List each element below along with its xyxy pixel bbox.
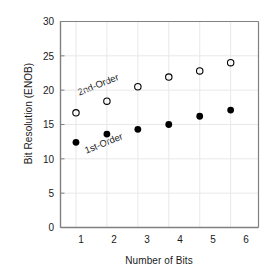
gridlines <box>61 22 259 228</box>
chart-figure: Bit Resolution (ENOB) Number of Bits 0 5… <box>0 0 275 279</box>
plot-area <box>0 0 275 279</box>
series-points-2nd-order <box>73 60 234 117</box>
series-points-1st-order <box>73 107 234 146</box>
